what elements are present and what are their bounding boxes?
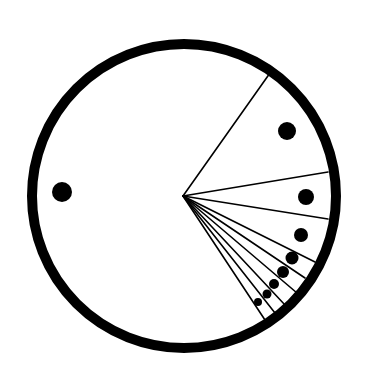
radial-line xyxy=(183,196,265,320)
sector-dot xyxy=(52,182,72,202)
sector-dot xyxy=(269,279,279,289)
sector-dots xyxy=(52,122,314,306)
diagram-canvas xyxy=(0,0,368,389)
radial-line xyxy=(183,196,275,313)
radial-line xyxy=(183,196,305,278)
sector-dot xyxy=(298,189,314,205)
sector-dot xyxy=(278,122,296,140)
radial-line xyxy=(183,73,270,196)
sector-dot xyxy=(277,266,289,278)
sector-dot xyxy=(286,252,299,265)
sector-dot xyxy=(254,298,262,306)
sector-dot xyxy=(294,228,308,242)
radial-line xyxy=(183,196,285,305)
sector-dot xyxy=(263,290,272,299)
sector-diagram xyxy=(0,0,368,389)
